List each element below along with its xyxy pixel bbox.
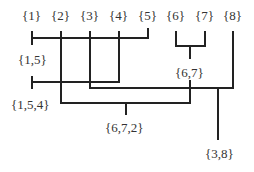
merge-3-8: {3,8} xyxy=(205,147,234,161)
merge-6-7-2: {6,7,2} xyxy=(105,121,143,135)
leaf-1: {1} xyxy=(22,9,41,23)
merge-1-5: {1,5} xyxy=(18,53,47,67)
leaf-5: {5} xyxy=(138,9,157,23)
leaf-2: {2} xyxy=(51,9,70,23)
leaf-3: {3} xyxy=(80,9,99,23)
merge-6-7: {6,7} xyxy=(175,66,204,80)
leaf-7: {7} xyxy=(195,9,214,23)
merge-1-5-4: {1,5,4} xyxy=(11,98,49,112)
leaf-8: {8} xyxy=(223,9,242,23)
leaf-6: {6} xyxy=(166,9,185,23)
leaf-4: {4} xyxy=(109,9,128,23)
